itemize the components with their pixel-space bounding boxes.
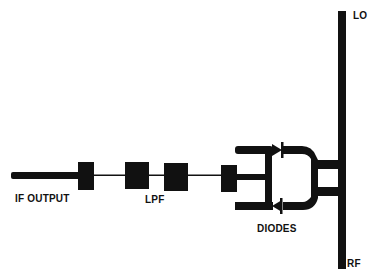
loop-bottom: [311, 187, 341, 196]
diode-feed-stub: [236, 174, 266, 180]
lpf-section-1: [78, 162, 94, 190]
lo-label: LO: [353, 10, 367, 21]
lower-arm-left: [235, 202, 273, 210]
diode-upper: [272, 142, 284, 158]
thin-connector-line: [78, 175, 228, 177]
if-output-line: [11, 172, 81, 179]
diode-left-spine: [265, 149, 272, 206]
mixer-diagram: LO RF IF OUTPUT LPF DIODES: [0, 0, 371, 279]
lpf-label: LPF: [145, 194, 165, 205]
lo-rf-line: [338, 11, 346, 269]
upper-arm-left: [235, 146, 273, 154]
lpf-section-3: [164, 163, 188, 191]
lpf-section-2: [125, 162, 149, 189]
loop-top: [311, 160, 341, 169]
diode-lower: [272, 198, 283, 214]
lpf-section-4: [221, 165, 237, 192]
diodes-label: DIODES: [257, 223, 297, 234]
rf-label: RF: [347, 258, 361, 269]
if-output-label: IF OUTPUT: [15, 193, 70, 204]
